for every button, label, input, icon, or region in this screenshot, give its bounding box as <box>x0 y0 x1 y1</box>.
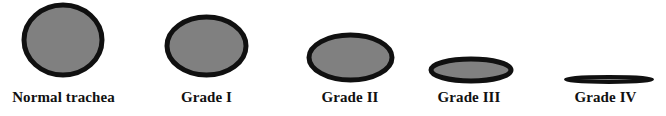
grade-label-grade-ii: Grade II <box>286 88 414 106</box>
shape-area <box>405 0 533 88</box>
grade-label-grade-i: Grade I <box>143 88 270 106</box>
shape-area <box>143 0 270 88</box>
shape-area <box>0 0 127 88</box>
shape-area <box>545 0 666 88</box>
trachea-lumen-ellipse-grade-i <box>164 13 249 79</box>
trachea-lumen-ellipse-grade-iii <box>428 55 514 85</box>
trachea-lumen-ellipse-grade-iv <box>564 73 654 86</box>
grade-column-normal-trachea: Normal trachea <box>0 0 127 116</box>
grade-column-grade-ii: Grade II <box>286 0 414 116</box>
trachea-lumen-ellipse-grade-ii <box>306 31 395 84</box>
shape-area <box>286 0 414 88</box>
grade-column-grade-iv: Grade IV <box>545 0 666 116</box>
grade-column-grade-i: Grade I <box>143 0 270 116</box>
grade-label-grade-iv: Grade IV <box>545 88 666 106</box>
tracheal-stenosis-figure: Normal trachea Grade I Grade II Grade II… <box>0 0 666 116</box>
trachea-lumen-ellipse-normal <box>21 1 105 79</box>
grade-label-normal-trachea: Normal trachea <box>0 88 127 106</box>
grade-label-grade-iii: Grade III <box>405 88 533 106</box>
grade-column-grade-iii: Grade III <box>405 0 533 116</box>
